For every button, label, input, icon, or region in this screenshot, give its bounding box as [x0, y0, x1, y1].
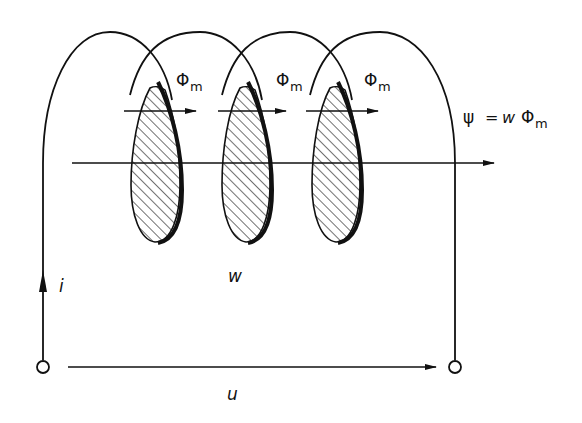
svg-text:Φ: Φ: [521, 107, 534, 127]
right-terminal: [449, 361, 461, 373]
turns-label: w: [228, 266, 242, 286]
svg-text:m: m: [378, 79, 391, 94]
svg-text:Φ: Φ: [364, 70, 377, 90]
flux-label-1: Φ m: [176, 70, 203, 94]
current-label: i: [59, 276, 64, 296]
voltage-label: u: [227, 384, 238, 404]
svg-text:w: w: [502, 108, 516, 127]
coil-diagram: Φ m Φ m Φ m ψ = w Φ m i w u: [0, 0, 582, 423]
svg-text:m: m: [535, 116, 548, 131]
svg-text:=: =: [485, 108, 498, 127]
flux-linkage-equation: ψ = w Φ m: [463, 107, 548, 131]
svg-text:m: m: [190, 79, 203, 94]
left-terminal: [37, 361, 49, 373]
svg-text:ψ: ψ: [463, 107, 474, 127]
current-arrow-icon: [39, 270, 47, 292]
svg-text:m: m: [290, 79, 303, 94]
flux-label-2: Φ m: [276, 70, 303, 94]
svg-text:Φ: Φ: [176, 70, 189, 90]
flux-label-3: Φ m: [364, 70, 391, 94]
svg-text:Φ: Φ: [276, 70, 289, 90]
